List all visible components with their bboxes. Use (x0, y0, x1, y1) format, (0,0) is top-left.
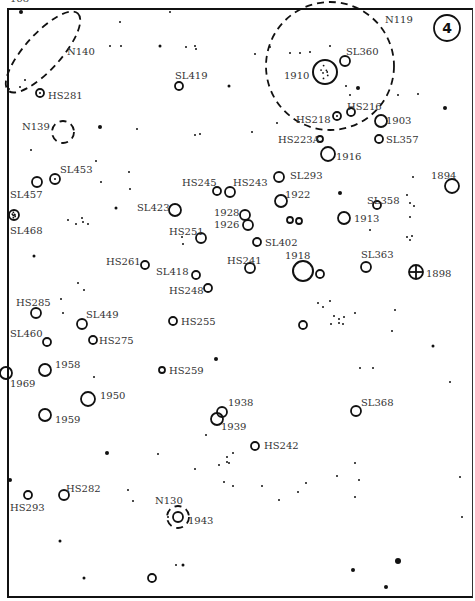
star-dot (338, 318, 340, 320)
star-dot (33, 255, 36, 258)
star-dot (297, 491, 299, 493)
star-dot (226, 461, 228, 463)
star-dot (276, 122, 278, 124)
cluster-label: SL449 (86, 309, 119, 320)
cluster-label: HS281 (48, 90, 83, 101)
star-dot (299, 52, 301, 54)
star-dot (409, 239, 411, 241)
star-dot (115, 207, 118, 210)
star-dot (223, 481, 225, 483)
star-chart: N140N139N119N130HS281SL419SL3601910HS218… (0, 0, 475, 601)
cluster-marker (225, 187, 235, 197)
star-dot (67, 219, 69, 221)
cluster-marker (274, 172, 284, 182)
star-dot (205, 434, 207, 436)
star-dot (19, 10, 23, 14)
star-dot (228, 85, 231, 88)
star-dot (342, 323, 344, 325)
star-dot (8, 478, 12, 482)
star-dot (136, 128, 138, 130)
star-dot (185, 46, 187, 48)
nebula-label: N139 (22, 121, 50, 132)
cluster-marker (213, 187, 221, 195)
star-dot (128, 171, 130, 173)
cluster-label: HS243 (233, 177, 268, 188)
star-dot (349, 94, 351, 96)
cluster-label: HS248 (169, 285, 204, 296)
cluster-label: HS261 (106, 256, 141, 267)
star-dot (157, 453, 159, 455)
cluster-marker (9, 210, 19, 220)
nebula-label: N119 (385, 14, 413, 25)
star-dot (226, 456, 228, 458)
star-dot (411, 235, 413, 237)
cluster-label: 1926 (214, 219, 239, 230)
star-dot (372, 367, 374, 369)
cluster-label: HS245 (182, 177, 217, 188)
cluster-label: SL357 (386, 134, 419, 145)
star-dot (169, 11, 171, 13)
cluster-marker (173, 512, 183, 522)
star-dot (228, 462, 230, 464)
star-dot (182, 564, 185, 567)
cluster-label: HS218 (296, 114, 331, 125)
cluster-label: 1938 (228, 397, 253, 408)
star-dot (175, 564, 177, 566)
cluster-marker (32, 177, 42, 187)
star-dot (449, 381, 451, 383)
star-dot (354, 462, 356, 464)
cluster-marker (340, 56, 350, 66)
star-dot (109, 45, 111, 47)
cluster-marker (361, 262, 371, 272)
star-dot (87, 223, 89, 225)
cluster-marker (39, 364, 51, 376)
star-dot (98, 125, 102, 129)
cluster-marker (251, 442, 259, 450)
cluster-label: 1918 (285, 250, 310, 261)
cluster-marker (192, 271, 200, 279)
cluster-marker (39, 409, 51, 421)
cluster-label: 1943 (188, 515, 213, 526)
cluster-label: SL363 (361, 249, 394, 260)
cluster-marker (321, 147, 335, 161)
cluster-label: HS216 (347, 101, 382, 112)
star-dot (317, 302, 319, 304)
cluster-label: 1922 (285, 189, 310, 200)
star-dot (369, 229, 371, 231)
star-dot (329, 45, 331, 47)
star-dot (60, 298, 62, 300)
star-dot (309, 51, 311, 53)
cluster-marker (169, 317, 177, 325)
star-dot (336, 475, 338, 477)
star-dot (461, 516, 463, 518)
star-dot (251, 131, 253, 133)
cluster-marker (351, 406, 361, 416)
star-dot (218, 464, 220, 466)
star-dot (77, 282, 79, 284)
cluster-label: 1958 (55, 359, 80, 370)
cluster-label: HS242 (264, 440, 299, 451)
star-dot (127, 489, 129, 491)
cluster-marker (287, 217, 293, 223)
cluster-marker (204, 284, 212, 292)
cluster-label: HS293 (10, 502, 45, 513)
cluster-label: SL468 (10, 225, 43, 236)
cluster-member-dot (322, 72, 324, 74)
star-dot (59, 540, 62, 543)
nebula-label: N140 (67, 46, 95, 57)
cluster-center-dot (54, 178, 56, 180)
cluster-marker (299, 321, 307, 329)
star-dot (194, 134, 196, 136)
cluster-marker (159, 367, 165, 373)
nebula-label: N130 (155, 495, 183, 506)
star-dot (356, 86, 360, 90)
star-dot (384, 585, 388, 589)
cluster-marker (375, 135, 383, 143)
cluster-member-dot (14, 216, 16, 218)
cluster-label: SL368 (361, 397, 394, 408)
star-dot (394, 309, 396, 311)
star-dot (95, 160, 97, 162)
cluster-label: HS259 (169, 365, 204, 376)
cluster-label: SL402 (265, 237, 298, 248)
cluster-marker (169, 204, 181, 216)
